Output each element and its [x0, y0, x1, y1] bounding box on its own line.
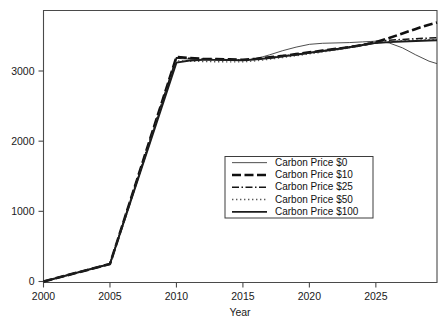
x-axis-ticks: 200020052010201520202025 — [32, 283, 388, 302]
y-tick-label: 3000 — [11, 65, 35, 77]
y-tick-label: 1000 — [11, 205, 35, 217]
y-tick-label: 2000 — [11, 135, 35, 147]
series-line-1 — [44, 23, 438, 282]
plot-frame — [44, 11, 438, 283]
x-axis-title: Year — [229, 306, 251, 318]
x-tick-label: 2010 — [165, 290, 189, 302]
y-tick-label: 0 — [29, 275, 35, 287]
chart-container: 0100020003000 200020052010201520202025 Y… — [0, 0, 448, 327]
legend-label-2: Carbon Price $25 — [275, 181, 353, 192]
x-tick-label: 2005 — [98, 290, 122, 302]
series-lines — [44, 23, 438, 282]
line-chart: 0100020003000 200020052010201520202025 Y… — [0, 0, 448, 327]
chart-legend: Carbon Price $0Carbon Price $10Carbon Pr… — [225, 157, 373, 219]
x-tick-label: 2025 — [364, 290, 388, 302]
legend-label-3: Carbon Price $50 — [275, 194, 353, 205]
legend-label-1: Carbon Price $10 — [275, 169, 353, 180]
y-axis-ticks: 0100020003000 — [11, 65, 43, 288]
x-tick-label: 2015 — [231, 290, 255, 302]
x-tick-label: 2000 — [32, 290, 56, 302]
legend-label-4: Carbon Price $100 — [275, 206, 359, 217]
x-tick-label: 2020 — [298, 290, 322, 302]
legend-label-0: Carbon Price $0 — [275, 157, 348, 168]
